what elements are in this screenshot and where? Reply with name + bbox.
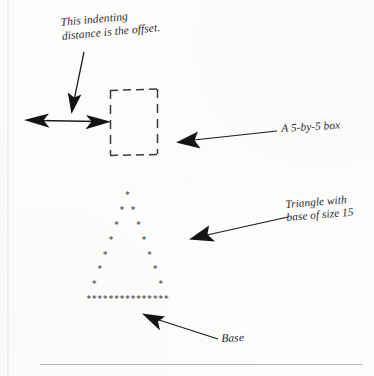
triangle-pointer-arrow bbox=[189, 217, 288, 242]
figure-page: * * * * * * * * * * * * * **************… bbox=[0, 0, 374, 376]
annotation-triangle: Triangle with base of size 15 bbox=[285, 193, 354, 225]
offset-pointer-arrow bbox=[68, 52, 84, 114]
dashed-box bbox=[110, 89, 158, 156]
offset-double-arrow bbox=[24, 114, 111, 130]
star-triangle: * * * * * * * * * * * * * **************… bbox=[86, 188, 169, 307]
base-pointer-arrow bbox=[142, 314, 218, 340]
bottom-rule bbox=[40, 364, 362, 365]
figure-vector-layer bbox=[0, 0, 374, 376]
annotation-base: Base bbox=[221, 331, 244, 345]
box-pointer-arrow bbox=[176, 131, 277, 149]
